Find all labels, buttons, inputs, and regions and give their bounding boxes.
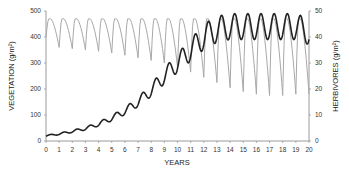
x-tick-label: 0 (44, 146, 48, 153)
x-tick-label: 8 (149, 146, 153, 153)
left-y-axis-title: VEGETATION (g/m²) (7, 41, 16, 111)
vegetation-herbivore-chart: 0123456789101112131415161718192001002003… (0, 0, 349, 175)
right-y-tick-label: 10 (315, 111, 323, 118)
x-tick-label: 13 (213, 146, 221, 153)
x-tick-label: 4 (97, 146, 101, 153)
x-tick-label: 11 (187, 146, 194, 153)
x-tick-label: 3 (84, 146, 88, 153)
x-tick-label: 5 (110, 146, 114, 153)
right-y-tick-label: 40 (315, 33, 323, 40)
x-tick-label: 12 (200, 146, 208, 153)
left-y-tick-label: 400 (30, 33, 41, 40)
x-tick-label: 2 (70, 146, 74, 153)
x-tick-label: 7 (136, 146, 140, 153)
herbivore-line (46, 14, 309, 137)
x-tick-label: 16 (253, 146, 261, 153)
right-y-tick-label: 20 (315, 85, 323, 92)
right-y-tick-label: 50 (315, 7, 323, 14)
left-y-tick-label: 300 (30, 59, 41, 66)
right-y-tick-label: 30 (315, 59, 323, 66)
left-y-tick-label: 200 (30, 85, 41, 92)
x-tick-label: 1 (57, 146, 61, 153)
x-tick-label: 10 (174, 146, 182, 153)
left-y-tick-label: 0 (37, 137, 41, 144)
x-tick-label: 18 (279, 146, 287, 153)
right-y-axis-title: HERBIVORES (g/m²) (331, 40, 340, 112)
right-y-tick-label: 0 (315, 137, 319, 144)
left-y-tick-label: 500 (30, 7, 41, 14)
x-axis-title: YEARS (164, 158, 189, 167)
plot-area: 0123456789101112131415161718192001002003… (0, 0, 349, 175)
x-tick-label: 17 (266, 146, 274, 153)
series-lines (46, 14, 309, 137)
left-y-tick-label: 100 (30, 111, 41, 118)
x-tick-label: 15 (240, 146, 248, 153)
x-tick-label: 9 (163, 146, 167, 153)
x-tick-label: 20 (305, 146, 313, 153)
x-tick-label: 6 (123, 146, 127, 153)
x-tick-label: 14 (226, 146, 234, 153)
x-tick-label: 19 (292, 146, 300, 153)
